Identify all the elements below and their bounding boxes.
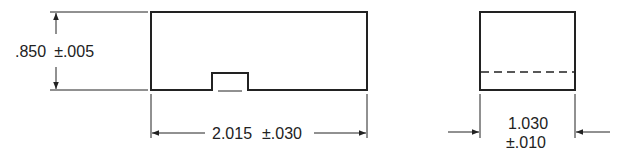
- width-dim-text: 2.015±.030: [212, 125, 302, 142]
- width-dimension: 2.015±.030: [151, 94, 367, 142]
- side-width-value: 1.030: [508, 115, 548, 132]
- technical-drawing: .850±.005 2.015±.030 1.030 ±.010: [0, 0, 622, 159]
- front-view-outline: [151, 12, 367, 90]
- height-dim-text: .850±.005: [15, 43, 94, 60]
- front-view: [151, 12, 367, 91]
- side-width-tolerance: ±.010: [506, 134, 546, 151]
- height-dimension: .850±.005: [15, 12, 148, 90]
- side-view-outline: [480, 12, 575, 90]
- side-width-dimension: 1.030 ±.010: [448, 94, 610, 151]
- side-view: [480, 12, 575, 90]
